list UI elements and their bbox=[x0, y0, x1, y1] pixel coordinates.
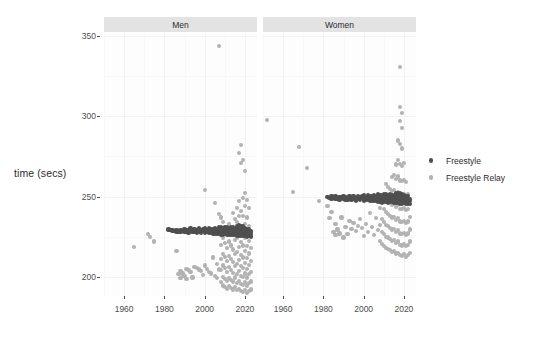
data-point bbox=[247, 263, 251, 267]
data-point bbox=[132, 245, 136, 249]
x-tick-mark bbox=[245, 296, 246, 299]
data-point bbox=[249, 229, 253, 233]
data-point bbox=[215, 276, 219, 280]
data-point bbox=[408, 227, 412, 231]
data-point bbox=[249, 279, 253, 283]
data-point bbox=[329, 210, 333, 214]
x-tick-label: 2020 bbox=[384, 304, 424, 314]
data-point bbox=[305, 166, 309, 170]
gridline-vertical-minor bbox=[384, 33, 385, 296]
x-tick-label: 2000 bbox=[344, 304, 384, 314]
gridline-horizontal bbox=[263, 36, 416, 37]
data-point bbox=[219, 215, 223, 219]
data-point bbox=[241, 158, 245, 162]
x-tick-mark bbox=[124, 296, 125, 299]
y-tick-mark bbox=[97, 277, 100, 278]
facet-label-women: Women bbox=[325, 20, 354, 30]
data-point bbox=[203, 188, 207, 192]
gridline-vertical-minor bbox=[263, 33, 264, 296]
gridline-horizontal bbox=[104, 36, 257, 37]
data-point bbox=[406, 219, 410, 223]
data-point bbox=[400, 126, 404, 130]
data-point bbox=[406, 231, 410, 235]
legend-item-freestyle-relay[interactable]: Freestyle Relay bbox=[424, 169, 505, 186]
data-point bbox=[190, 275, 194, 279]
data-point bbox=[406, 207, 410, 211]
gridline-horizontal bbox=[263, 277, 416, 278]
facet-strip-women: Women bbox=[263, 17, 416, 32]
data-point bbox=[341, 235, 345, 239]
y-tick-mark bbox=[97, 116, 100, 117]
data-point bbox=[402, 161, 406, 165]
legend-key-freestyle-relay-icon bbox=[424, 175, 438, 180]
x-tick-label: 1960 bbox=[104, 304, 144, 314]
data-point bbox=[184, 277, 188, 281]
data-point bbox=[351, 221, 355, 225]
x-tick-label: 1980 bbox=[303, 304, 343, 314]
data-point bbox=[398, 119, 402, 123]
data-point bbox=[297, 145, 301, 149]
data-point bbox=[239, 209, 243, 213]
data-point bbox=[400, 146, 404, 150]
data-point bbox=[247, 251, 251, 255]
gridline-horizontal-minor bbox=[104, 156, 257, 157]
y-tick-label: 350 bbox=[56, 31, 96, 41]
data-point bbox=[364, 222, 368, 226]
x-tick-mark bbox=[164, 296, 165, 299]
gridline-vertical bbox=[205, 33, 206, 296]
data-point bbox=[237, 151, 241, 155]
data-point bbox=[408, 239, 412, 243]
data-point bbox=[368, 211, 372, 215]
facet-label-men: Men bbox=[172, 20, 189, 30]
x-tick-label: 1980 bbox=[144, 304, 184, 314]
data-point bbox=[404, 180, 408, 184]
data-point bbox=[245, 215, 249, 219]
gridline-horizontal bbox=[104, 116, 257, 117]
data-point bbox=[237, 269, 241, 273]
x-tick-mark bbox=[323, 296, 324, 299]
gridline-vertical-minor bbox=[185, 33, 186, 296]
data-point bbox=[354, 229, 358, 233]
data-point bbox=[231, 211, 235, 215]
data-point bbox=[362, 234, 366, 238]
data-point bbox=[249, 287, 253, 291]
data-point bbox=[339, 215, 343, 219]
x-tick-mark bbox=[404, 296, 405, 299]
x-tick-label: 2000 bbox=[185, 304, 225, 314]
gridline-horizontal bbox=[263, 116, 416, 117]
legend-item-freestyle[interactable]: Freestyle bbox=[424, 152, 505, 169]
data-point bbox=[345, 232, 349, 236]
y-axis-ticks: 200250300350 bbox=[56, 0, 96, 340]
data-point bbox=[213, 201, 217, 205]
data-point bbox=[243, 169, 247, 173]
data-point bbox=[325, 204, 329, 208]
y-tick-label: 300 bbox=[56, 111, 96, 121]
data-point bbox=[366, 230, 370, 234]
data-point bbox=[237, 199, 241, 203]
y-tick-label: 200 bbox=[56, 272, 96, 282]
data-point bbox=[358, 217, 362, 221]
data-point bbox=[327, 216, 331, 220]
y-tick-mark bbox=[97, 197, 100, 198]
gridline-horizontal-minor bbox=[104, 76, 257, 77]
x-tick-label: 2020 bbox=[225, 304, 265, 314]
gridline-vertical-minor bbox=[303, 33, 304, 296]
data-point bbox=[174, 249, 178, 253]
gridline-horizontal-minor bbox=[263, 76, 416, 77]
x-tick-mark bbox=[205, 296, 206, 299]
data-point bbox=[247, 239, 251, 243]
gridline-vertical bbox=[364, 33, 365, 296]
data-point bbox=[249, 270, 253, 274]
data-point bbox=[265, 118, 269, 122]
data-point bbox=[239, 143, 243, 147]
data-point bbox=[372, 233, 376, 237]
legend-label-freestyle: Freestyle bbox=[446, 156, 481, 166]
data-point bbox=[217, 44, 221, 48]
gridline-vertical bbox=[124, 33, 125, 296]
data-point bbox=[247, 206, 251, 210]
data-point bbox=[243, 191, 247, 195]
y-tick-mark bbox=[97, 36, 100, 37]
legend: Freestyle Freestyle Relay bbox=[424, 152, 505, 186]
data-point bbox=[291, 190, 295, 194]
data-point bbox=[398, 65, 402, 69]
